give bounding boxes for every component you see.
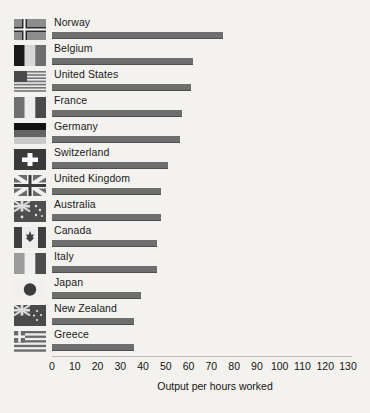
bar-label-greece: Greece — [54, 328, 89, 340]
bar-row: Japan — [52, 278, 348, 304]
flag-japan-icon — [14, 279, 46, 300]
x-tick-10: 10 — [69, 360, 81, 372]
bar-row: France — [52, 96, 348, 122]
x-tick-30: 30 — [114, 360, 126, 372]
x-axis-ticks: 0102030405060708090100110120130 — [0, 360, 370, 376]
bar-greece — [52, 344, 134, 351]
flag-france-icon — [14, 97, 46, 118]
flag-italy-icon — [14, 253, 46, 274]
x-tick-50: 50 — [160, 360, 172, 372]
bar-italy — [52, 266, 157, 273]
bar-norway — [52, 32, 223, 39]
x-tick-40: 40 — [137, 360, 149, 372]
x-tick-130: 130 — [339, 360, 357, 372]
flag-norway-icon — [14, 19, 46, 40]
bar-united-states — [52, 84, 191, 91]
plot-area: NorwayBelgiumUnited StatesFranceGermanyS… — [52, 18, 348, 356]
bar-japan — [52, 292, 141, 299]
bar-row: Germany — [52, 122, 348, 148]
x-tick-80: 80 — [228, 360, 240, 372]
bar-label-united-kingdom: United Kingdom — [54, 172, 130, 184]
flag-switzerland-icon — [14, 149, 46, 170]
x-tick-110: 110 — [294, 360, 311, 372]
bar-label-new-zealand: New Zealand — [54, 302, 117, 314]
bar-belgium — [52, 58, 193, 65]
bar-label-italy: Italy — [54, 250, 74, 262]
bar-chart: NorwayBelgiumUnited StatesFranceGermanyS… — [0, 0, 370, 413]
bar-label-belgium: Belgium — [54, 42, 93, 54]
x-tick-70: 70 — [206, 360, 218, 372]
x-tick-0: 0 — [49, 360, 55, 372]
bar-row: United States — [52, 70, 348, 96]
bar-canada — [52, 240, 157, 247]
flag-greece-icon — [14, 331, 46, 352]
bar-france — [52, 110, 182, 117]
bar-new-zealand — [52, 318, 134, 325]
bar-germany — [52, 136, 180, 143]
x-axis-line — [52, 356, 352, 357]
bar-row: New Zealand — [52, 304, 348, 330]
bar-row: Norway — [52, 18, 348, 44]
bar-label-united-states: United States — [54, 68, 118, 80]
bar-label-france: France — [54, 94, 87, 106]
flag-canada-icon — [14, 227, 46, 248]
x-axis-title-label: Output per hours worked — [157, 380, 273, 392]
bar-label-canada: Canada — [54, 224, 91, 236]
bar-row: Italy — [52, 252, 348, 278]
flag-new-zealand-icon — [14, 305, 46, 326]
bar-united-kingdom — [52, 188, 161, 195]
bar-label-switzerland: Switzerland — [54, 146, 109, 158]
bar-label-australia: Australia — [54, 198, 96, 210]
bar-row: Canada — [52, 226, 348, 252]
x-tick-100: 100 — [271, 360, 289, 372]
x-tick-90: 90 — [251, 360, 263, 372]
x-tick-60: 60 — [183, 360, 195, 372]
flag-column — [0, 18, 52, 356]
bar-row: Greece — [52, 330, 348, 356]
x-tick-120: 120 — [316, 360, 334, 372]
flag-united-states-icon — [14, 71, 46, 92]
bar-row: Belgium — [52, 44, 348, 70]
flag-united-kingdom-icon — [14, 175, 46, 196]
flag-germany-icon — [14, 123, 46, 144]
bar-row: United Kingdom — [52, 174, 348, 200]
flag-australia-icon — [14, 201, 46, 222]
x-tick-20: 20 — [92, 360, 104, 372]
bar-australia — [52, 214, 161, 221]
bar-label-norway: Norway — [54, 16, 90, 28]
bar-switzerland — [52, 162, 168, 169]
x-axis-title: Output per hours worked — [0, 380, 370, 392]
bar-label-japan: Japan — [54, 276, 83, 288]
bar-row: Australia — [52, 200, 348, 226]
flag-belgium-icon — [14, 45, 46, 66]
bar-label-germany: Germany — [54, 120, 98, 132]
bar-row: Switzerland — [52, 148, 348, 174]
